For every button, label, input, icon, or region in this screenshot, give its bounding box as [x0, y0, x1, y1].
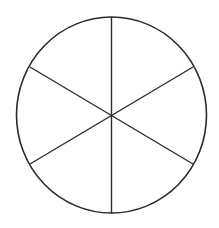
- sector-dividers: [30, 17, 193, 213]
- circle-svg: [0, 0, 219, 228]
- divided-circle-diagram: [0, 0, 219, 228]
